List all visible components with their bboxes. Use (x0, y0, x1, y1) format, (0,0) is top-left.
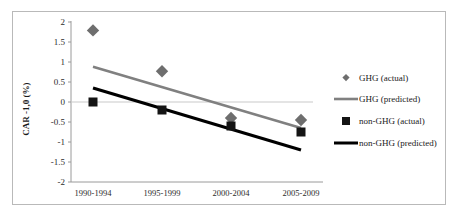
figure-frame: CAR -1,0 (%) 2 1.5 1 0.5 0 -0.5 -1 -1.5 … (12, 11, 446, 205)
legend-label: GHG (predicted) (359, 94, 420, 104)
x-category-label: 2005-2009 (283, 188, 320, 198)
x-category-label: 1990-1994 (75, 188, 113, 198)
legend-item-ghg-predicted[interactable]: GHG (predicted) (334, 94, 420, 104)
y-tick-label: 0.5 (54, 77, 66, 87)
series-markers-nonghg-actual (89, 98, 306, 137)
data-point-diamond (87, 24, 99, 36)
x-axis-category-labels: 1990-1994 1995-1999 2000-2004 2005-2009 (75, 188, 320, 198)
legend-label: non-GHG (predicted) (359, 138, 437, 148)
data-point-diamond (156, 65, 168, 77)
y-tick-label: -1 (58, 137, 66, 147)
data-point-square (158, 106, 167, 115)
y-axis-tick-labels: 2 1.5 1 0.5 0 -0.5 -1 -1.5 -2 (51, 17, 66, 187)
y-tick-label: -0.5 (51, 117, 66, 127)
legend-label: non-GHG (actual) (359, 116, 425, 126)
legend-square-icon (342, 117, 350, 125)
x-category-label: 1995-1999 (144, 188, 181, 198)
y-tick-label: 2 (61, 17, 66, 27)
legend-item-nonghg-predicted[interactable]: non-GHG (predicted) (334, 138, 437, 148)
y-tick-label: 0 (61, 97, 66, 107)
y-tick-label: 1 (61, 57, 66, 67)
data-point-square (227, 122, 236, 131)
y-tick-label: -2 (58, 177, 66, 187)
data-point-diamond (295, 114, 307, 126)
legend-label: GHG (actual) (359, 73, 408, 83)
chart-legend: GHG (actual) GHG (predicted) non-GHG (ac… (334, 73, 437, 148)
data-point-square (89, 98, 98, 107)
y-axis-title: CAR -1,0 (%) (21, 82, 31, 135)
chart-area: CAR -1,0 (%) 2 1.5 1 0.5 0 -0.5 -1 -1.5 … (13, 12, 447, 206)
legend-item-ghg-actual[interactable]: GHG (actual) (342, 73, 408, 83)
x-category-label: 2000-2004 (213, 188, 251, 198)
chart-svg: CAR -1,0 (%) 2 1.5 1 0.5 0 -0.5 -1 -1.5 … (13, 12, 447, 206)
legend-item-nonghg-actual[interactable]: non-GHG (actual) (342, 116, 425, 126)
data-point-square (297, 128, 306, 137)
y-tick-label: -1.5 (51, 157, 66, 167)
legend-diamond-icon (342, 74, 349, 81)
y-tick-label: 1.5 (54, 37, 66, 47)
